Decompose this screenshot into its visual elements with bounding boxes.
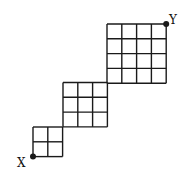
point-y-label: Y [169, 14, 177, 26]
point-x-dot [30, 154, 36, 160]
point-x-label: X [17, 157, 26, 169]
grid-small [33, 127, 63, 157]
grid-medium [63, 83, 107, 127]
grid-diagram [0, 0, 190, 179]
grid-large [107, 24, 166, 83]
